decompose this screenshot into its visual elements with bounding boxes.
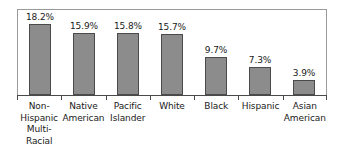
bar-slot: 9.7%: [194, 10, 238, 95]
bar-chart: 18.2%15.9%15.8%15.7%9.7%7.3%3.9% Non-His…: [0, 0, 342, 159]
bar-slot: 15.7%: [150, 10, 194, 95]
bar: [73, 33, 95, 95]
category-label-line: Hispanic: [239, 101, 281, 113]
bar-slot: 3.9%: [282, 10, 326, 95]
bar-value-label: 15.8%: [114, 21, 142, 32]
category-label-line: Racial: [18, 136, 60, 148]
tick-mark: [238, 96, 239, 100]
bar-value-label: 9.7%: [205, 45, 227, 56]
tick-mark: [17, 96, 18, 100]
category-label-line: Black: [195, 101, 237, 113]
category-label: AsianAmerican: [283, 101, 327, 124]
category-label: NativeAmerican: [61, 101, 105, 124]
category-label-line: Non-: [18, 101, 60, 113]
category-label-line: Pacific: [107, 101, 149, 113]
category-label-line: Multi-: [18, 124, 60, 136]
bar-value-label: 15.9%: [70, 21, 98, 32]
x-axis-ticks: [17, 96, 327, 100]
bar: [205, 57, 227, 95]
bars-container: 18.2%15.9%15.8%15.7%9.7%7.3%3.9%: [18, 10, 326, 95]
plot-area-frame: 18.2%15.9%15.8%15.7%9.7%7.3%3.9%: [17, 9, 327, 96]
category-label: PacificIslander: [106, 101, 150, 124]
bar: [117, 33, 139, 95]
bar-slot: 15.8%: [106, 10, 150, 95]
tick-mark: [61, 96, 62, 100]
tick-mark: [194, 96, 195, 100]
category-label: White: [150, 101, 194, 113]
bar: [293, 80, 315, 95]
bar: [249, 67, 271, 95]
tick-mark: [283, 96, 284, 100]
bar-slot: 15.9%: [62, 10, 106, 95]
category-label-line: American: [284, 113, 326, 125]
bar-value-label: 7.3%: [249, 55, 271, 66]
tick-mark: [150, 96, 151, 100]
category-label-line: Hispanic: [18, 113, 60, 125]
bar-slot: 7.3%: [238, 10, 282, 95]
bar: [161, 34, 183, 95]
category-label: Hispanic: [238, 101, 282, 113]
category-label-line: White: [151, 101, 193, 113]
tick-mark: [106, 96, 107, 100]
bar-value-label: 3.9%: [293, 68, 315, 79]
tick-mark: [326, 96, 327, 100]
category-label-line: Asian: [284, 101, 326, 113]
category-label-line: American: [62, 113, 104, 125]
bar-slot: 18.2%: [18, 10, 62, 95]
category-label-line: Islander: [107, 113, 149, 125]
category-label: Non-HispanicMulti-Racial: [17, 101, 61, 147]
category-label: Black: [194, 101, 238, 113]
bar-value-label: 15.7%: [158, 22, 186, 33]
bar: [29, 24, 51, 95]
category-label-line: Native: [62, 101, 104, 113]
bar-value-label: 18.2%: [26, 12, 54, 23]
x-axis-category-labels: Non-HispanicMulti-RacialNativeAmericanPa…: [17, 101, 327, 147]
